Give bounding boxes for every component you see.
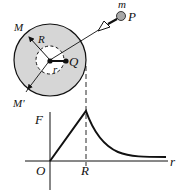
m-prime-tick <box>26 89 28 92</box>
force-curve <box>50 111 166 161</box>
particle-p <box>117 12 126 21</box>
label-R-graph: R <box>80 163 89 178</box>
label-r: r <box>53 63 58 75</box>
point-q <box>63 58 68 63</box>
label-r-axis: r <box>170 154 176 169</box>
label-m-prime: M' <box>12 97 25 109</box>
label-M: M <box>13 21 24 33</box>
hollow-arrow-icon <box>98 21 110 31</box>
particle-force-shaft <box>108 19 117 24</box>
label-q: Q <box>69 54 79 69</box>
label-m: m <box>118 0 126 10</box>
center-dot <box>47 58 52 63</box>
gravitational-shell-diagram: m P M R r Q M' F r O R <box>0 0 179 193</box>
label-F-axis: F <box>34 112 44 127</box>
label-R-shell: R <box>37 33 45 45</box>
label-p: P <box>127 9 136 24</box>
label-origin: O <box>36 163 46 178</box>
